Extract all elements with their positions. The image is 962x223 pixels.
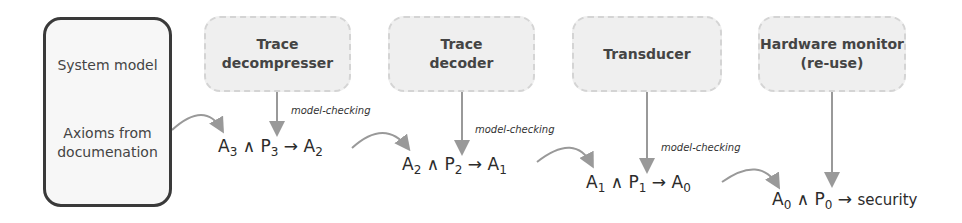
formula-a2: A2 ∧ P2 → A1: [402, 154, 507, 177]
hardware-monitor-box: Hardware monitor (re-use): [758, 16, 906, 92]
formula-a0: A0 ∧ P0 → security: [772, 189, 917, 212]
formula-a1: A1 ∧ P1 → A0: [586, 172, 691, 195]
axioms-label: Axioms from documenation: [57, 124, 158, 162]
formula-a3: A3 ∧ P3 → A2: [218, 136, 323, 159]
trace-decoder-box: Trace decoder: [388, 16, 535, 92]
edge-label-1: model-checking: [291, 105, 371, 116]
edge-label-3: model-checking: [661, 142, 741, 153]
trace-decompresser-box: Trace decompresser: [204, 16, 351, 92]
transducer-box: Transducer: [572, 16, 722, 92]
system-model-box: System model Axioms from documenation: [43, 17, 172, 207]
edge-label-2: model-checking: [475, 124, 555, 135]
system-model-title: System model: [57, 56, 157, 75]
